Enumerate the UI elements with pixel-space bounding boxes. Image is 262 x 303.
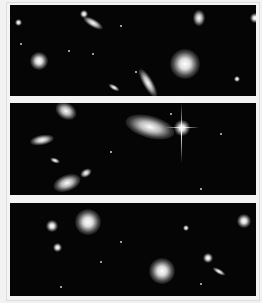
galaxy [29,133,54,147]
diffraction-spike [181,103,182,163]
faint-source [170,113,172,115]
bright-star [174,120,190,136]
diffraction-spike [165,127,199,128]
bright-star [30,52,48,70]
faint-source [120,241,122,243]
elliptical-galaxy [170,49,200,79]
faint-source [100,261,102,263]
galaxy [49,156,60,164]
star [46,220,58,232]
faint-source [68,50,70,52]
faint-source [92,53,94,55]
faint-source [60,286,62,288]
faint-source [135,71,137,73]
faint-source [110,151,112,153]
galaxy [52,103,79,123]
galaxy [193,10,205,26]
star [234,76,240,82]
star [15,19,22,26]
faint-source [200,188,202,190]
star [80,10,88,18]
faint-source [220,133,222,135]
deep-field-panel-3 [10,203,256,296]
galaxy [51,171,83,195]
star [183,225,189,231]
star [250,13,256,23]
galaxy [108,82,121,92]
faint-source [120,25,122,27]
galaxy [212,266,227,277]
galaxy [79,167,93,180]
bright-star [149,258,175,284]
deep-field-panel-1 [10,5,256,96]
bright-star [75,209,101,235]
deep-field-panel-2 [10,103,256,195]
star [203,253,213,263]
star [237,214,251,228]
edge-on-galaxy [136,67,161,96]
faint-source [200,283,202,285]
faint-source [20,43,22,45]
star [53,243,62,252]
